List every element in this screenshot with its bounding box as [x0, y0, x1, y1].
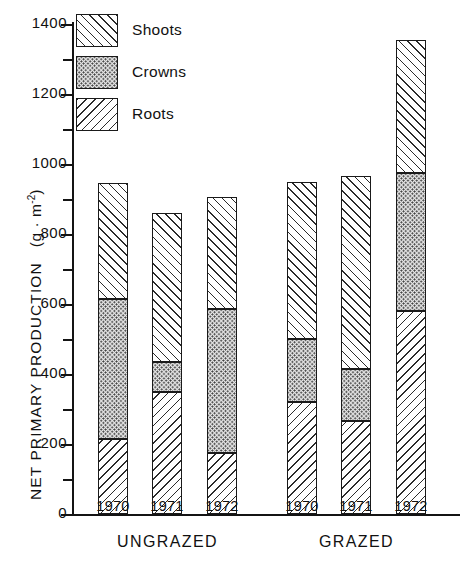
y-tick-label: 600 [40, 294, 67, 311]
x-tick-label-ungrazed-1970: 1970 [85, 498, 141, 514]
legend-item-roots[interactable]: Roots [76, 98, 256, 134]
bar-segment-roots [396, 311, 426, 514]
bar-segment-shoots [396, 40, 426, 173]
bar-segment-shoots [207, 197, 237, 309]
y-tick-mark [63, 199, 72, 201]
x-tick-label-grazed-1970: 1970 [274, 498, 330, 514]
y-tick-label: 0 [58, 504, 67, 521]
y-tick-label: 400 [40, 364, 67, 381]
legend-swatch-shoots [76, 14, 118, 47]
y-axis-unit-suffix: ) [27, 189, 44, 195]
y-axis-title-area: NET PRIMARY PRODUCTION (g · m-2) [0, 0, 34, 540]
y-tick-mark [63, 409, 72, 411]
y-axis-title-unit: (g · m-2) [27, 189, 44, 257]
stacked-bar[interactable] [396, 40, 426, 514]
y-tick-label: 1400 [32, 14, 67, 31]
stacked-bar[interactable] [152, 213, 182, 514]
bar-segment-crowns [152, 362, 182, 392]
chart-figure: NET PRIMARY PRODUCTION (g · m-2) 0200400… [0, 0, 461, 584]
legend-swatch-roots [76, 98, 118, 131]
legend-item-crowns[interactable]: Crowns [76, 56, 256, 92]
legend-label-crowns: Crowns [132, 63, 186, 81]
bar-segment-crowns [98, 299, 128, 439]
y-tick-mark [63, 59, 72, 61]
y-tick-mark [63, 339, 72, 341]
y-axis-unit-exponent: -2 [26, 195, 37, 204]
y-tick-label: 1200 [32, 84, 67, 101]
stacked-bar[interactable] [341, 176, 371, 514]
legend-label-roots: Roots [132, 105, 174, 123]
group-label-ungrazed: UNGRAZED [68, 533, 268, 551]
legend-label-shoots: Shoots [132, 21, 182, 39]
stacked-bar[interactable] [98, 183, 128, 514]
y-tick-mark [63, 269, 72, 271]
bar-segment-crowns [396, 173, 426, 311]
bar-segment-crowns [341, 369, 371, 422]
bar-segment-shoots [287, 182, 317, 340]
stacked-bar[interactable] [207, 197, 237, 514]
y-tick-label: 200 [40, 434, 67, 451]
x-tick-label-grazed-1972: 1972 [383, 498, 439, 514]
group-label-grazed: GRAZED [257, 533, 457, 551]
x-tick-label-ungrazed-1972: 1972 [194, 498, 250, 514]
bar-segment-roots [152, 392, 182, 515]
bar-segment-shoots [341, 176, 371, 369]
chart-legend: ShootsCrownsRoots [76, 14, 256, 140]
bar-segment-shoots [98, 183, 128, 299]
bar-segment-shoots [152, 213, 182, 362]
x-tick-label-ungrazed-1971: 1971 [139, 498, 195, 514]
y-axis-line [72, 22, 74, 514]
stacked-bar[interactable] [287, 182, 317, 515]
bar-segment-crowns [207, 309, 237, 453]
y-tick-label: 800 [40, 224, 67, 241]
x-axis-line [72, 514, 460, 516]
legend-swatch-crowns [76, 56, 118, 89]
y-tick-mark [63, 479, 72, 481]
x-tick-label-grazed-1971: 1971 [328, 498, 384, 514]
bar-segment-crowns [287, 339, 317, 402]
legend-item-shoots[interactable]: Shoots [76, 14, 256, 50]
y-tick-label: 1000 [32, 154, 67, 171]
y-tick-mark [63, 129, 72, 131]
